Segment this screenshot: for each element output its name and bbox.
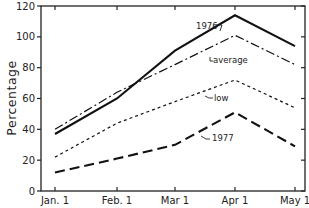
annotation-label: average [213,55,248,65]
series-annotations: 1976averagelow1977 [196,21,248,143]
y-tick-label: 60 [22,93,35,104]
plot-frame [41,6,305,191]
series-line-1977 [55,112,295,172]
annotation-label: 1977 [212,133,234,143]
y-tick-label: 40 [22,124,35,135]
series-lines [55,15,295,172]
y-tick-label: 80 [22,62,35,73]
annotation-label: low [214,93,229,103]
annotation-label: 1976 [196,21,218,31]
y-tick-label: 0 [29,186,35,197]
annotation-leader [201,136,210,139]
y-tick-label: 120 [16,1,35,12]
series-line-average [55,35,295,129]
x-tick-label: Apr 1 [222,195,249,206]
annotation-leader [205,96,213,98]
series-line-1976 [55,15,295,134]
y-tick-label: 20 [22,155,35,166]
x-axis: Jan. 1Feb. 1Mar 1Apr 1May 1 [40,6,309,206]
y-axis-label: Percentage [4,60,19,135]
x-tick-label: Mar 1 [161,195,189,206]
x-tick-label: Feb. 1 [102,195,132,206]
y-tick-label: 100 [16,31,35,42]
x-tick-label: May 1 [280,195,309,206]
x-tick-label: Jan. 1 [40,195,69,206]
line-chart: 020406080100120 Jan. 1Feb. 1Mar 1Apr 1Ma… [0,0,309,208]
